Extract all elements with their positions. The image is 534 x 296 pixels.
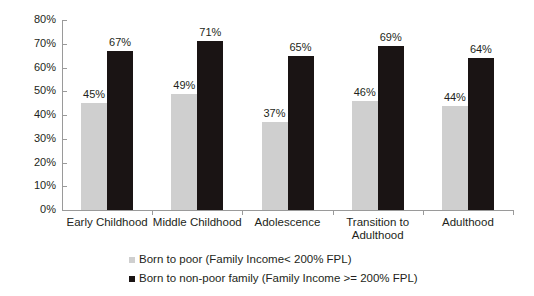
x-axis-tick [333,210,334,215]
x-axis-category-label: Early Childhood [58,216,156,229]
bar-poor [442,106,468,211]
bar-poor [352,101,378,210]
y-axis-tick-label: 30% [10,133,56,144]
bar-value-label: 69% [372,32,410,43]
plot-area: 45%67%49%71%37%65%46%69%44%64% [62,20,513,210]
legend-swatch-icon-nonpoor [129,276,135,282]
y-axis-tick-label: 70% [10,38,56,49]
x-axis-category-label: Transition to Adulthood [329,216,427,242]
x-axis-line [62,210,514,211]
bar-poor [171,94,197,210]
y-axis-tick-label: 50% [10,85,56,96]
bar-value-label: 71% [191,27,229,38]
x-axis-tick [242,210,243,215]
y-axis-tick-label: 60% [10,62,56,73]
legend-item-born-to-non-poor: Born to non-poor family (Family Income >… [129,272,418,285]
bar-value-label: 65% [282,42,320,53]
x-axis-tick [423,210,424,215]
x-axis-category-label: Adolescence [238,216,336,229]
x-axis-tick [513,210,514,215]
bar-nonpoor [468,58,494,210]
y-axis-tick [62,210,67,211]
bar-poor [262,122,288,210]
x-axis-category-label: Adulthood [419,216,517,229]
legend-swatch-icon-poor [129,257,135,263]
legend-item-born-to-poor: Born to poor (Family Income< 200% FPL) [129,253,352,266]
bar-nonpoor [378,46,404,210]
legend-label-nonpoor: Born to non-poor family (Family Income >… [139,272,418,285]
bar-nonpoor [107,51,133,210]
bar-poor [81,103,107,210]
x-axis-tick [152,210,153,215]
x-axis-category-label: Middle Childhood [148,216,246,229]
bar-value-label: 64% [462,44,500,55]
y-axis-tick-label: 0% [10,204,56,215]
bar-nonpoor [197,41,223,210]
bar-chart: 0%10%20%30%40%50%60%70%80% 45%67%49%71%3… [0,0,534,296]
legend-label-poor: Born to poor (Family Income< 200% FPL) [139,253,352,266]
y-axis-tick-label: 80% [10,14,56,25]
bar-nonpoor [288,56,314,210]
y-axis-tick-label: 20% [10,157,56,168]
bar-value-label: 67% [101,37,139,48]
y-axis-tick-label: 10% [10,180,56,191]
y-axis-tick-label: 40% [10,109,56,120]
